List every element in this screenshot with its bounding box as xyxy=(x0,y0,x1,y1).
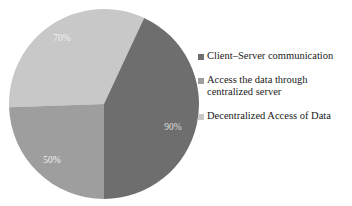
legend-swatch-icon-centralized-server xyxy=(198,78,204,84)
pie-chart-figure: 70% 50% 90% Client–Server communication … xyxy=(0,0,352,206)
legend-swatch-icon-decentralized-access xyxy=(198,114,204,120)
legend-item-centralized-server[interactable]: Access the data through centralized serv… xyxy=(198,74,350,99)
legend-item-decentralized-access[interactable]: Decentralized Access of Data xyxy=(198,110,350,123)
legend-label-client-server: Client–Server communication xyxy=(207,50,333,63)
pie-label-50: 50% xyxy=(43,155,61,165)
pie-label-90: 90% xyxy=(164,122,182,132)
pie-slice-centralized-server[interactable] xyxy=(9,104,104,199)
pie-chart-svg: 70% 50% 90% xyxy=(0,0,212,206)
pie-label-70: 70% xyxy=(53,33,71,43)
legend-label-centralized-server: Access the data through centralized serv… xyxy=(207,74,308,99)
chart-legend: Client–Server communication Access the d… xyxy=(198,50,350,133)
pie-chart-area: 70% 50% 90% xyxy=(0,0,212,206)
legend-item-client-server[interactable]: Client–Server communication xyxy=(198,50,350,63)
legend-label-decentralized-access: Decentralized Access of Data xyxy=(207,110,331,123)
legend-swatch-icon-client-server xyxy=(198,54,204,60)
